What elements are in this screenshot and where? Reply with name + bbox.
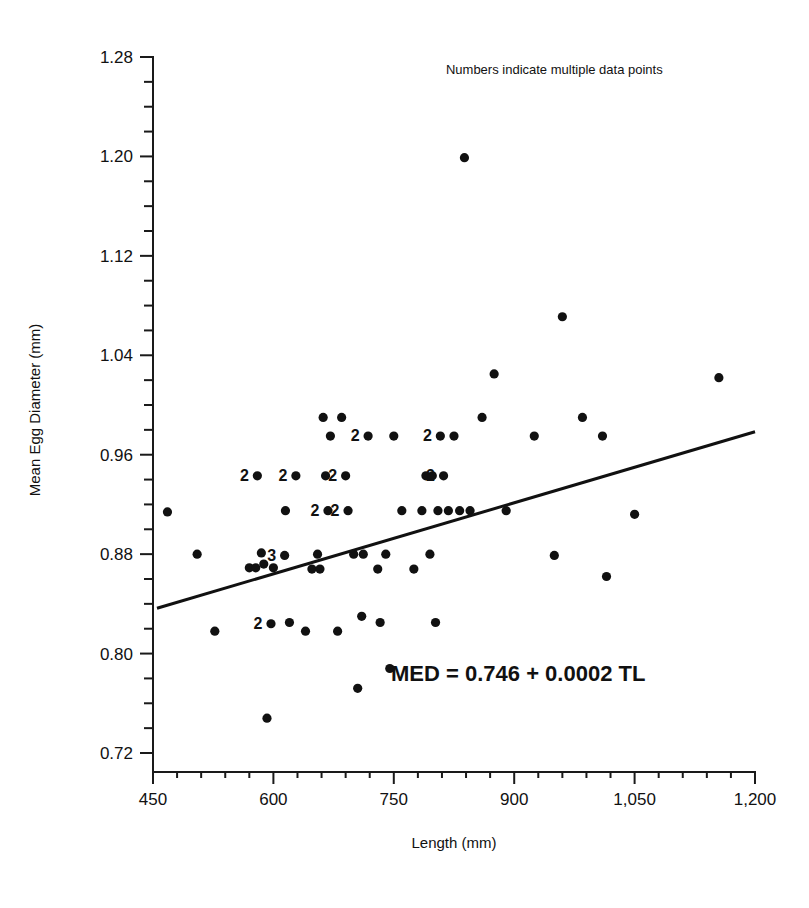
multi-point-count: 2 — [426, 467, 435, 484]
data-point — [163, 507, 172, 516]
data-point — [281, 506, 290, 515]
x-tick-label: 1,050 — [613, 790, 656, 809]
data-point — [530, 431, 539, 440]
data-point — [477, 413, 486, 422]
data-point — [373, 564, 382, 573]
data-point — [431, 618, 440, 627]
multi-point-count: 2 — [254, 615, 263, 632]
y-tick-label: 0.88 — [100, 545, 133, 564]
x-axis-title: Length (mm) — [411, 834, 496, 851]
data-point — [714, 373, 723, 382]
data-point — [409, 564, 418, 573]
data-point — [301, 627, 310, 636]
multi-point-count: 3 — [267, 547, 276, 564]
multi-point-count: 2 — [328, 467, 337, 484]
data-point — [280, 551, 289, 560]
data-point — [193, 550, 202, 559]
y-tick-label: 1.20 — [100, 147, 133, 166]
data-point — [578, 413, 587, 422]
y-tick-label: 0.80 — [100, 645, 133, 664]
multiple-points-note: Numbers indicate multiple data points — [446, 62, 663, 77]
data-point — [269, 563, 278, 572]
data-point — [210, 627, 219, 636]
multi-point-count: 2 — [240, 467, 249, 484]
data-point — [425, 550, 434, 559]
data-point — [439, 471, 448, 480]
y-tick-label: 1.12 — [100, 247, 133, 266]
data-point — [490, 369, 499, 378]
data-point — [353, 684, 362, 693]
multi-point-count: 2 — [311, 502, 320, 519]
scatter-plot: 0.720.800.880.961.041.121.201.28 4506007… — [0, 0, 809, 908]
data-point — [359, 550, 368, 559]
x-tick-label: 750 — [380, 790, 408, 809]
data-point — [602, 572, 611, 581]
regression-equation: MED = 0.746 + 0.0002 TL — [391, 661, 645, 686]
data-point — [558, 312, 567, 321]
data-point — [436, 431, 445, 440]
data-point — [417, 506, 426, 515]
data-point — [397, 506, 406, 515]
data-point — [307, 564, 316, 573]
y-tick-label: 1.28 — [100, 48, 133, 67]
x-tick-label: 1,200 — [734, 790, 777, 809]
data-point — [285, 618, 294, 627]
data-point — [389, 431, 398, 440]
y-tick-label: 1.04 — [100, 346, 133, 365]
data-point — [251, 563, 260, 572]
multi-point-count: 2 — [278, 467, 287, 484]
data-point — [449, 431, 458, 440]
data-point — [333, 627, 342, 636]
multi-point-count: 2 — [331, 502, 340, 519]
data-point — [253, 471, 262, 480]
data-point — [444, 506, 453, 515]
data-point — [343, 506, 352, 515]
data-point — [598, 431, 607, 440]
x-tick-label: 600 — [259, 790, 287, 809]
multi-point-count: 2 — [351, 427, 360, 444]
data-point — [326, 431, 335, 440]
data-point — [357, 612, 366, 621]
data-point — [291, 471, 300, 480]
data-point — [319, 413, 328, 422]
y-axis-title: Mean Egg Diameter (mm) — [26, 324, 43, 497]
data-point — [262, 714, 271, 723]
data-point — [433, 506, 442, 515]
x-tick-label: 900 — [500, 790, 528, 809]
data-point — [364, 431, 373, 440]
y-tick-label: 0.96 — [100, 446, 133, 465]
data-point — [337, 413, 346, 422]
data-point — [550, 551, 559, 560]
data-point — [455, 506, 464, 515]
x-tick-label: 450 — [139, 790, 167, 809]
multi-point-count: 2 — [423, 427, 432, 444]
data-point — [460, 153, 469, 162]
data-point — [341, 471, 350, 480]
data-point — [313, 550, 322, 559]
data-point — [257, 548, 266, 557]
data-point — [630, 510, 639, 519]
data-point — [381, 550, 390, 559]
data-point — [315, 564, 324, 573]
y-tick-label: 0.72 — [100, 744, 133, 763]
data-point — [266, 619, 275, 628]
data-point — [376, 618, 385, 627]
figure-container: 0.720.800.880.961.041.121.201.28 4506007… — [0, 0, 809, 908]
